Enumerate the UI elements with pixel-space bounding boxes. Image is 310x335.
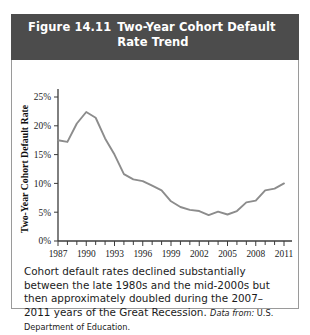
svg-text:1993: 1993 bbox=[105, 249, 124, 259]
figure-header-inner: Figure 14.11 Two-Year Cohort Default Rat… bbox=[28, 20, 291, 50]
svg-text:2005: 2005 bbox=[218, 249, 237, 259]
caption-source-lead: Data from: bbox=[210, 308, 254, 318]
svg-text:5%: 5% bbox=[39, 208, 52, 218]
svg-text:2002: 2002 bbox=[190, 249, 209, 259]
x-axis-tick-labels: 198719901993199619992002200520082011 bbox=[49, 249, 294, 259]
svg-text:25%: 25% bbox=[34, 92, 51, 102]
figure-title: Two-Year Cohort Default Rate Trend bbox=[117, 20, 291, 50]
x-axis-ticks bbox=[58, 241, 284, 246]
svg-text:15%: 15% bbox=[34, 150, 51, 160]
svg-text:1999: 1999 bbox=[162, 249, 181, 259]
y-axis-title: Two-Year Cohort Default Rate bbox=[19, 104, 30, 233]
svg-text:20%: 20% bbox=[34, 121, 51, 131]
svg-text:0%: 0% bbox=[39, 236, 52, 246]
y-axis-tick-labels: 0%5%10%15%20%25% bbox=[34, 92, 51, 246]
figure-container: Figure 14.11 Two-Year Cohort Default Rat… bbox=[11, 14, 299, 309]
data-series-line bbox=[58, 112, 284, 215]
chart-panel: 0%5%10%15%20%25% 19871990199319961999200… bbox=[11, 60, 299, 264]
svg-text:1990: 1990 bbox=[77, 249, 96, 259]
svg-text:1987: 1987 bbox=[49, 249, 68, 259]
svg-text:2008: 2008 bbox=[246, 249, 265, 259]
caption-panel: Cohort default rates declined substantia… bbox=[11, 264, 299, 309]
svg-text:1996: 1996 bbox=[133, 249, 152, 259]
figure-number: Figure 14.11 bbox=[28, 20, 111, 35]
svg-text:2011: 2011 bbox=[275, 249, 294, 259]
line-chart: 0%5%10%15%20%25% 19871990199319961999200… bbox=[12, 60, 300, 264]
figure-header-bar: Figure 14.11 Two-Year Cohort Default Rat… bbox=[11, 14, 299, 60]
caption-block: Cohort default rates declined substantia… bbox=[24, 265, 288, 335]
svg-text:10%: 10% bbox=[34, 179, 51, 189]
